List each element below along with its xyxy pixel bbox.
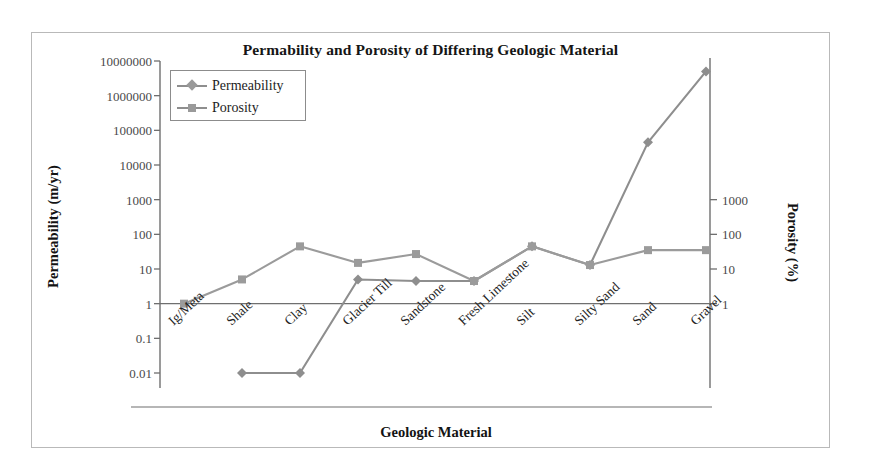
legend-label-porosity: Porosity [212, 100, 259, 116]
y-axis-left-tick: 10000 [20, 159, 152, 172]
y-axis-right-tick: 10 [722, 263, 735, 276]
y-axis-left-tick: 1 [20, 297, 152, 310]
y-axis-right-title: Porosity (%) [784, 173, 801, 313]
square-marker-icon [177, 102, 207, 114]
diamond-marker-icon [177, 80, 207, 92]
legend-item-permeability: Permeability [177, 75, 299, 97]
y-axis-right-tick: 100 [722, 228, 742, 241]
y-axis-left-tick: 1000000 [20, 89, 152, 102]
y-axis-left-tick: 0.01 [20, 367, 152, 380]
legend-label-permeability: Permeability [212, 78, 284, 94]
y-axis-left-tick: 10000000 [20, 55, 152, 68]
chart-legend: Permeability Porosity [170, 70, 306, 121]
y-axis-left-tick: 0.1 [20, 332, 152, 345]
x-axis-title: Geologic Material [0, 424, 872, 441]
y-axis-left-tick: 100 [20, 228, 152, 241]
y-axis-left-tick: 1000 [20, 193, 152, 206]
legend-item-porosity: Porosity [177, 97, 299, 119]
y-axis-left-tick: 10 [20, 263, 152, 276]
y-axis-left-tick: 100000 [20, 124, 152, 137]
y-axis-left-title: Permeability (m/yr) [45, 122, 62, 332]
y-axis-right-tick: 1000 [722, 193, 748, 206]
